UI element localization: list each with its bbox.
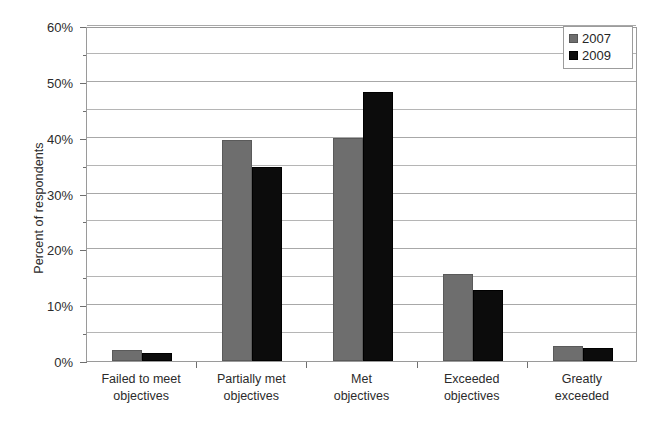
bar-series-container	[87, 28, 636, 361]
x-axis-category-labels: Failed to meet objectivesPartially met o…	[86, 371, 637, 417]
bar-2009-1	[142, 353, 172, 361]
legend-swatch-icon	[569, 51, 578, 60]
x-axis-tick-mark	[527, 362, 528, 368]
y-axis-tick-label: 30%	[26, 187, 80, 202]
bar-2007-4	[443, 274, 473, 361]
bar-2009-2	[252, 167, 282, 361]
bar-2007-1	[112, 350, 142, 361]
y-axis-tick-label: 20%	[26, 243, 80, 258]
y-axis-tick-label: 60%	[26, 20, 80, 35]
x-axis-category-label: Exceeded objectives	[417, 371, 527, 404]
bar-chart: Percent of respondents 0%10%20%30%40%50%…	[0, 0, 660, 427]
x-axis-tick-mark	[306, 362, 307, 368]
bar-2007-2	[222, 140, 252, 361]
legend-swatch-icon	[569, 34, 578, 43]
x-axis-category-label: Greatly exceeded	[527, 371, 637, 404]
bar-2007-5	[553, 346, 583, 361]
legend-label: 2009	[582, 49, 611, 63]
plot-area	[86, 27, 637, 362]
bar-2009-5	[583, 348, 613, 361]
y-axis-tick-labels: 0%10%20%30%40%50%60%	[26, 27, 80, 362]
legend-item-2009: 2009	[569, 47, 627, 64]
gridline	[87, 25, 636, 26]
x-axis-category-label: Failed to meet objectives	[86, 371, 196, 404]
x-axis-tick-mark	[196, 362, 197, 368]
bar-2009-3	[363, 92, 393, 361]
legend-label: 2007	[582, 32, 611, 46]
y-axis-tick-label: 0%	[26, 355, 80, 370]
x-axis-category-label: Partially met objectives	[196, 371, 306, 404]
y-axis-tick-label: 40%	[26, 131, 80, 146]
y-axis-tick-label: 10%	[26, 299, 80, 314]
y-axis-tick-label: 50%	[26, 75, 80, 90]
x-axis-category-label: Met objectives	[306, 371, 416, 404]
legend-item-2007: 2007	[569, 30, 627, 47]
x-axis-tick-marks	[86, 362, 637, 370]
legend: 20072009	[563, 26, 633, 69]
bar-2007-3	[333, 138, 363, 361]
x-axis-tick-mark	[417, 362, 418, 368]
bar-2009-4	[473, 290, 503, 361]
